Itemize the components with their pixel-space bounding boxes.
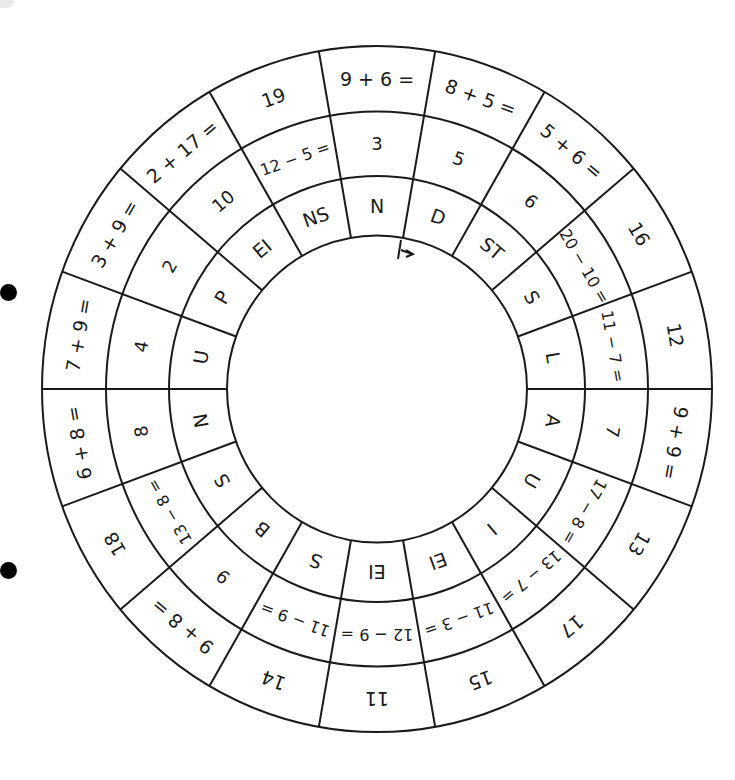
outer-ring-cell: 6 + 8 =	[61, 404, 96, 481]
outer-ring-cell: 12	[662, 321, 688, 349]
spoke	[452, 522, 545, 686]
middle-ring-cell: 8	[130, 424, 153, 439]
inner-ring-cell: S	[209, 470, 234, 491]
middle-ring-cell: 2	[158, 256, 182, 276]
spoke	[210, 522, 303, 686]
inner-ring-cell: ST	[476, 233, 509, 265]
middle-ring-cell: 7	[602, 424, 625, 439]
outer-ring-cell: 14	[258, 666, 288, 695]
inner-ring-cell: N	[189, 412, 213, 430]
middle-ring-cell: 6	[520, 189, 542, 212]
middle-ring-cell: 4	[130, 339, 153, 354]
inner-ring-cell: P	[210, 287, 235, 308]
inner-ring-cell: D	[428, 204, 449, 230]
ring-3	[227, 235, 527, 542]
middle-ring-cell: 13 − 8 =	[143, 475, 196, 547]
middle-ring-cell: 5	[450, 147, 468, 171]
inner-ring-cell: B	[250, 517, 274, 542]
middle-ring-cell: 3	[371, 133, 382, 154]
middle-ring-cell: 11 − 3 =	[422, 598, 497, 641]
spoke	[210, 92, 303, 256]
inner-ring-cell: I	[483, 519, 501, 539]
middle-ring-cell: 11 − 7 =	[597, 309, 628, 384]
math-wheel: 9 + 6 =3N8 + 5 =5D5 + 6 =6ST1620 − 10 =S…	[0, 0, 735, 780]
outer-ring-cell: 2 + 17 =	[142, 115, 222, 187]
inner-ring-cell: U	[519, 469, 545, 492]
outer-ring-cell: 7 + 9 =	[61, 297, 96, 374]
inner-ring-cell: N	[370, 195, 384, 217]
middle-ring-cell: 12 − 5 =	[258, 137, 333, 180]
outer-ring-cell: 17	[555, 610, 588, 642]
ring-2	[169, 176, 585, 602]
inner-ring-cell: EI	[248, 235, 276, 263]
outer-ring-cell: 8 + 5 =	[442, 74, 519, 120]
outer-ring-cell: 13	[624, 528, 655, 560]
inner-ring-cell: U	[189, 348, 213, 366]
inner-ring-cell: S	[306, 549, 325, 574]
middle-ring-cell: 17 − 8 =	[558, 475, 611, 547]
middle-ring-cell: 9	[212, 565, 234, 588]
inner-ring-cell: S	[519, 287, 544, 308]
outer-ring-cell: 9 + 9 =	[658, 404, 693, 481]
outer-ring-cell: 11	[365, 688, 389, 710]
spoke	[452, 92, 545, 256]
inner-ring-cell: EI	[368, 561, 386, 583]
inner-ring-cell: EI	[426, 548, 450, 575]
middle-ring-cell: 11 − 9 =	[258, 598, 333, 641]
outer-ring-cell: 15	[466, 666, 496, 695]
start-arrow-icon	[398, 240, 413, 259]
inner-ring-cell: A	[541, 413, 565, 430]
middle-ring-cell: 10	[208, 186, 239, 217]
inner-ring-cell: NS	[300, 202, 332, 232]
outer-ring-cell: 18	[99, 528, 130, 560]
outer-ring-cell: 16	[624, 218, 655, 250]
outer-ring-cell: 3 + 9 =	[87, 196, 143, 271]
outer-ring-cell: 19	[258, 83, 288, 112]
outer-ring-cell: 9 + 6 =	[340, 68, 414, 90]
middle-ring-cell: 12 − 9 =	[341, 625, 414, 644]
inner-ring-cell: L	[542, 350, 566, 365]
